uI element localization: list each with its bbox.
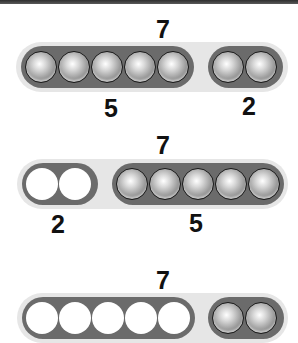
empty-slot — [26, 302, 58, 334]
right-group-filled — [112, 163, 284, 205]
total-label: 7 — [148, 133, 178, 158]
left-part-label: 5 — [96, 96, 126, 121]
empty-slot — [92, 302, 124, 334]
top-bar — [0, 0, 298, 4]
counter-ball — [248, 168, 280, 200]
empty-slot — [59, 302, 91, 334]
right-part-label: 2 — [234, 94, 264, 119]
outer-track — [17, 159, 288, 209]
counter-ball — [91, 51, 123, 83]
counter-ball — [149, 168, 181, 200]
counter-ball — [215, 168, 247, 200]
right-group-filled — [208, 46, 283, 88]
left-part-label: 2 — [43, 212, 73, 237]
left-group-filled — [21, 46, 194, 88]
counter-ball — [116, 168, 148, 200]
counter-ball — [58, 51, 90, 83]
right-part-label: 5 — [181, 211, 211, 236]
right-group-filled — [208, 297, 284, 339]
outer-track — [16, 42, 288, 92]
outer-track — [17, 293, 288, 343]
total-label: 7 — [148, 17, 178, 42]
empty-slot — [59, 168, 91, 200]
left-group-empty — [22, 297, 195, 339]
counter-ball — [182, 168, 214, 200]
empty-slot — [26, 168, 58, 200]
counter-ball — [124, 51, 156, 83]
counter-ball — [157, 51, 189, 83]
counter-ball — [25, 51, 57, 83]
empty-slot — [125, 302, 157, 334]
empty-slot — [158, 302, 190, 334]
left-group-empty — [22, 163, 98, 205]
counter-ball — [245, 302, 277, 334]
counter-ball — [212, 51, 244, 83]
total-label: 7 — [148, 268, 178, 293]
counter-ball — [212, 302, 244, 334]
counter-ball — [245, 51, 277, 83]
